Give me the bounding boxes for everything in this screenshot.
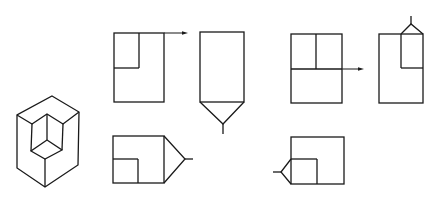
view-6 xyxy=(273,137,344,184)
iso-notch-floor xyxy=(31,140,62,159)
view-1 xyxy=(114,31,188,102)
view-3 xyxy=(291,34,364,103)
view-2 xyxy=(200,32,244,134)
arrow-right-icon xyxy=(182,31,188,35)
iso-outline xyxy=(17,96,79,187)
iso-notch-vertical-3 xyxy=(62,124,63,150)
view-5 xyxy=(113,136,193,183)
view-4 xyxy=(379,16,423,103)
view-2-outline xyxy=(200,32,244,102)
orthographic-views xyxy=(113,16,423,184)
view-2-view-symbol xyxy=(200,102,244,124)
arrow-right-icon xyxy=(358,67,364,71)
projection-diagram xyxy=(0,0,438,204)
iso-notch-vertical-1 xyxy=(31,124,32,151)
iso-notch-top-edge xyxy=(17,112,79,124)
view-4-view-symbol xyxy=(401,24,423,34)
view-6-view-symbol xyxy=(281,159,291,184)
diagram-svg xyxy=(0,0,438,204)
view-5-view-symbol xyxy=(164,136,185,183)
isometric-block xyxy=(17,96,79,187)
